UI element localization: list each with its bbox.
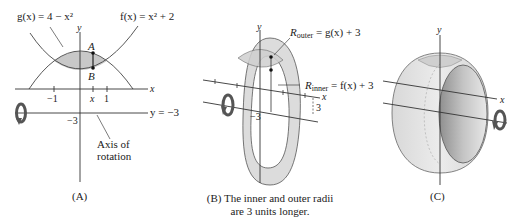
f-label: f(x) = x² + 2	[120, 10, 174, 23]
inner-point	[269, 68, 273, 72]
rotation-arrow-icon	[492, 111, 505, 130]
rotation-arrow-icon	[221, 95, 233, 115]
axis-of-rotation-label-1: Axis of	[97, 138, 130, 150]
inner-opening	[439, 65, 487, 163]
r-inner-label: Rinner = f(x) + 3	[304, 79, 374, 93]
g-leader-line	[50, 27, 63, 47]
tick-neg3-label: −3	[250, 111, 261, 122]
tick-x-label: x	[89, 93, 95, 104]
y-axis-label: y	[76, 22, 82, 33]
panel-a-caption: (A)	[72, 190, 88, 203]
rotation-arrow-icon	[16, 104, 26, 125]
axis-leader-line	[97, 115, 110, 139]
panel-b: y x Router = g(x) + 3 Rinner = f(x) + 3 …	[203, 21, 374, 185]
panel-a: g(x) = 4 − x² f(x) = x² + 2 y A B x −1 x…	[15, 10, 179, 203]
point-a-label: A	[87, 40, 95, 52]
panel-b-caption: (B) The inner and outer radii are 3 unit…	[205, 192, 335, 218]
panel-b-caption-line1: (B) The inner and outer radii	[205, 192, 335, 205]
dimension-3-label: 3	[316, 102, 321, 113]
x-axis-label: x	[499, 94, 505, 105]
y-axis-label: y	[436, 24, 442, 35]
panel-b-caption-line2: are 3 units longer.	[205, 205, 335, 218]
r-outer-label: Router = g(x) + 3	[289, 26, 361, 40]
tick-1-label: 1	[104, 93, 109, 104]
axis-of-rotation-label-2: rotation	[97, 150, 132, 162]
outer-point	[269, 55, 273, 59]
g-label: g(x) = 4 − x²	[17, 10, 74, 23]
shaded-region	[54, 52, 107, 71]
axis-line-label: y = −3	[150, 106, 179, 118]
x-axis-label: x	[149, 83, 155, 94]
panel-c-caption: (C)	[430, 190, 445, 203]
figure-canvas: g(x) = 4 − x² f(x) = x² + 2 y A B x −1 x…	[0, 0, 518, 220]
point-b-label: B	[88, 70, 95, 82]
tick-neg3-label: −3	[67, 115, 78, 126]
x-axis	[203, 80, 320, 98]
panel-c: y x (C)	[383, 24, 507, 203]
y-axis-label: y	[256, 21, 262, 32]
tick-neg1-label: −1	[47, 93, 58, 104]
